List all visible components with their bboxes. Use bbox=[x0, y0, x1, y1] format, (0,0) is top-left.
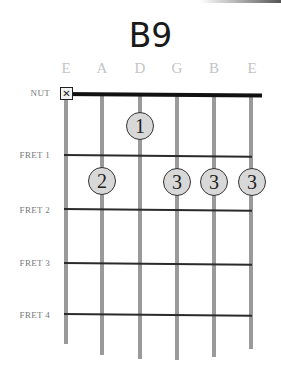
string-a bbox=[100, 95, 104, 355]
muted-string-x-icon: ✕ bbox=[60, 87, 73, 100]
string-label-d: D bbox=[130, 60, 150, 77]
top-decorative-bar bbox=[200, 0, 281, 3]
row-label-fret-4: FRET 4 bbox=[0, 310, 50, 320]
string-g bbox=[175, 96, 179, 360]
string-label-g: G bbox=[167, 60, 187, 77]
row-label-fret-1: FRET 1 bbox=[0, 150, 50, 160]
chord-title: B9 bbox=[0, 16, 281, 55]
fret-line-2 bbox=[64, 208, 252, 212]
string-label-low-e: E bbox=[56, 60, 76, 77]
nut bbox=[60, 92, 262, 97]
string-b bbox=[212, 96, 216, 357]
string-label-high-e: E bbox=[242, 60, 262, 77]
string-high-e bbox=[249, 97, 253, 349]
fret-line-4 bbox=[64, 313, 252, 317]
row-label-nut: NUT bbox=[0, 88, 50, 98]
finger-dot-a-fret-2: 2 bbox=[88, 167, 116, 195]
finger-dot-high-e-fret-2: 3 bbox=[238, 168, 266, 196]
finger-dot-g-fret-2: 3 bbox=[163, 168, 191, 196]
finger-dot-b-fret-2: 3 bbox=[200, 168, 228, 196]
fret-line-1 bbox=[64, 154, 252, 158]
row-label-fret-3: FRET 3 bbox=[0, 258, 50, 268]
string-label-a: A bbox=[92, 60, 112, 77]
row-label-fret-2: FRET 2 bbox=[0, 205, 50, 215]
fret-line-3 bbox=[64, 262, 252, 266]
string-label-b: B bbox=[204, 60, 224, 77]
string-low-e bbox=[64, 94, 68, 344]
finger-dot-d-fret-1: 1 bbox=[126, 112, 154, 140]
